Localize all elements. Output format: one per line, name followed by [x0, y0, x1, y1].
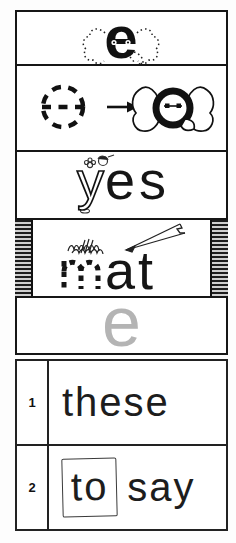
dashed-letter-m [64, 261, 98, 289]
word-yes-solid-es: es [105, 152, 170, 210]
gray-letter-card: e [15, 296, 228, 355]
scribble-icon [68, 239, 103, 254]
exercise-table: 1 these 2 to say [15, 359, 228, 531]
row-word-cell: to say [49, 446, 226, 529]
letter-card: e [15, 10, 228, 66]
table-row-1: 1 these [17, 361, 226, 446]
trace-card [15, 64, 228, 152]
word-yes-art: y es [17, 152, 226, 218]
dashed-letter-e [42, 87, 84, 127]
row-number: 2 [17, 446, 49, 529]
elephant-pupil-left [113, 41, 115, 43]
boxed-word-to: to [61, 457, 118, 517]
row-number: 1 [17, 361, 49, 444]
elephant-pupil-right [127, 41, 129, 43]
elephant-face-icon [133, 87, 214, 131]
gray-letter-e: e [102, 287, 141, 357]
word-yes-outline-y: y [77, 152, 104, 210]
word-these: these [62, 380, 170, 425]
trace-e-to-elephant-art [17, 67, 226, 149]
row-word-cell: these [49, 361, 226, 444]
elephant-right-ear-icon [137, 29, 159, 64]
elephant-letter-art: e [17, 12, 226, 64]
word-yes-card: y es [15, 150, 228, 220]
table-row-2: 2 to say [17, 446, 226, 529]
word-say: say [127, 465, 195, 510]
right-stripe-bar [212, 220, 228, 296]
elephant-left-ear-icon [83, 29, 105, 64]
big-letter-e: e [104, 12, 137, 64]
left-stripe-bar [15, 220, 31, 296]
